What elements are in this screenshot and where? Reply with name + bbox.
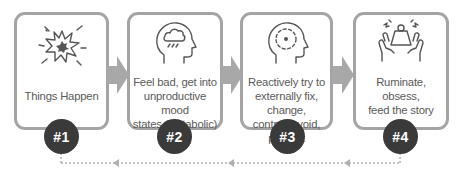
step-1-badge: #1 <box>44 119 79 154</box>
step-4-badge: #4 <box>383 119 418 154</box>
step-2-badge: #2 <box>157 119 192 154</box>
step-3-badge: #3 <box>270 119 305 154</box>
